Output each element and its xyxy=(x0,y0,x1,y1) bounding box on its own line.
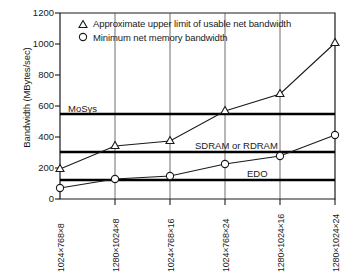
legend-label-upper-limit: Approximate upper limit of usable net ba… xyxy=(93,19,291,29)
x-tick-label-3: 1024×768×24 xyxy=(222,219,231,272)
reference-label-sdram-rdram: SDRAM or RDRAM xyxy=(195,141,278,151)
legend-marker-circle-icon xyxy=(79,33,86,40)
chart-figure: Bandwidth (MBytes/sec) 1200 1000 800 600… xyxy=(0,0,352,276)
x-tick-label-1: 1280×1024×8 xyxy=(112,219,121,272)
legend-marker-triangle-icon xyxy=(79,21,87,28)
legend-label-minimum-bandwidth: Minimum net memory bandwidth xyxy=(93,33,227,43)
x-tick-label-2: 1024×768×16 xyxy=(167,219,176,272)
x-tick-label-0: 1024×768×8 xyxy=(57,223,66,272)
x-tick-label-4: 1280×1024×16 xyxy=(277,214,286,272)
reference-label-edo: EDO xyxy=(247,169,268,179)
x-axis-ticks xyxy=(115,199,335,205)
reference-label-mosys: MoSys xyxy=(68,104,97,114)
x-tick-label-5: 1280×1024×24 xyxy=(332,214,341,272)
